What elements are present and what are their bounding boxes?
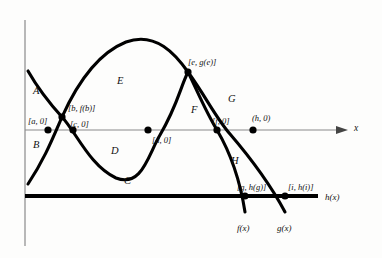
f-curve-label: f(x)	[237, 224, 250, 233]
region-F: F	[191, 105, 197, 116]
point-h-label: (h, 0)	[252, 114, 270, 123]
point-a-dot	[44, 126, 51, 133]
math-figure	[0, 0, 382, 258]
h-curve-label: h(x)	[325, 193, 340, 202]
point-c-label: [c, 0]	[70, 120, 89, 129]
point-d-dot	[144, 126, 151, 133]
intersection-dots	[44, 68, 288, 199]
region-E: E	[117, 76, 123, 87]
point-g-label: [g, h(g)]	[237, 183, 266, 192]
point-f-dot	[213, 126, 220, 133]
x-axis-label: x	[354, 124, 358, 134]
point-e-dot	[184, 68, 191, 75]
region-G: G	[228, 94, 236, 105]
f-curve	[28, 71, 245, 212]
point-i-label: [i, h(i)]	[288, 183, 314, 192]
g-curve-label: g(x)	[277, 224, 292, 233]
point-d-label: [d, 0]	[152, 136, 171, 145]
point-i-dot	[281, 192, 288, 199]
point-e-label: [e, g(e)]	[188, 58, 216, 67]
point-b-dot	[58, 113, 65, 120]
region-D: D	[111, 146, 119, 157]
point-a-label: [a, 0]	[28, 117, 47, 126]
region-C: C	[124, 176, 131, 187]
region-B: B	[33, 140, 39, 151]
region-A: A	[33, 86, 39, 97]
point-b-label: [b, f(b)]	[68, 104, 95, 113]
point-g-dot	[241, 192, 248, 199]
x-axis-arrow-icon	[336, 126, 348, 134]
region-H: H	[231, 156, 239, 167]
point-h-dot	[249, 126, 256, 133]
point-f-label: [f, 0]	[212, 117, 229, 126]
